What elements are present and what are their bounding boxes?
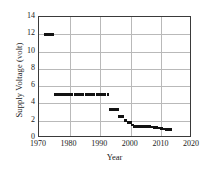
x-axis-tick-label: 2000 (113, 139, 147, 149)
x-axis-tick-label: 1990 (82, 139, 116, 149)
x-axis-tick-labels: 197019801990200020102020 (0, 0, 206, 171)
supply-voltage-scatter-chart: Supply Voltage (volt) 02468101214 197019… (0, 0, 206, 171)
x-axis-tick-label: 2020 (174, 139, 206, 149)
x-axis-tick-label: 2010 (143, 139, 177, 149)
x-axis-tick-label: 1970 (21, 139, 55, 149)
x-axis-tick-label: 1980 (52, 139, 86, 149)
x-axis-title: Year (38, 152, 191, 163)
